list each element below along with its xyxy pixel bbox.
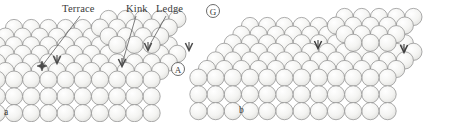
panel-b-letter: b	[239, 105, 244, 115]
panel-b-spheres	[190, 8, 422, 119]
ledge-label: Ledge	[156, 3, 183, 14]
kink-label: Kink	[126, 3, 148, 14]
terrace-label: Terrace	[62, 3, 95, 14]
panel-a-spheres	[0, 10, 186, 121]
panel-a-letter: a	[4, 107, 8, 117]
sphere-model-canvas	[0, 0, 467, 122]
crystal-surface-figure	[0, 0, 467, 122]
a-marker: A	[171, 62, 185, 76]
step-chevron-right	[185, 42, 192, 51]
g-marker: G	[206, 4, 220, 18]
